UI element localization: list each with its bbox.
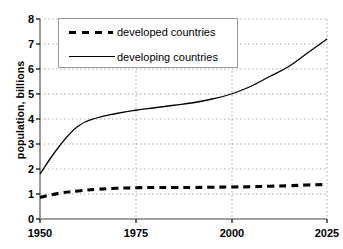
population-chart: population, billions 8 7 6 5 4 3 2 1 0 1… <box>0 0 343 249</box>
legend-label-developing: developing countries <box>117 51 218 63</box>
series-line-developed-countries <box>40 185 327 198</box>
legend-label-developed: developed countries <box>117 26 215 38</box>
legend-dashed-line-icon <box>63 25 117 39</box>
legend: developed countries developing countries <box>58 18 238 68</box>
legend-solid-line-icon <box>63 50 117 64</box>
legend-entry-developed: developed countries <box>59 19 239 44</box>
legend-entry-developing: developing countries <box>59 44 239 69</box>
